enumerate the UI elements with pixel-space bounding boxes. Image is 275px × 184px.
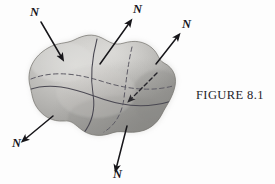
label-n-top-right: N — [181, 17, 192, 31]
surface-body — [20, 25, 190, 145]
label-n-bottom-center: N — [112, 167, 123, 181]
figure-8-1: N N N N N FIGURE 8.1 — [0, 0, 275, 184]
arrow-top-right — [156, 36, 178, 64]
arrow-bottom-left — [24, 116, 53, 140]
label-n-bottom-left: N — [11, 136, 22, 150]
label-n-top-center: N — [132, 2, 143, 16]
label-n-top-left: N — [29, 5, 40, 19]
figure-caption: FIGURE 8.1 — [196, 88, 264, 103]
